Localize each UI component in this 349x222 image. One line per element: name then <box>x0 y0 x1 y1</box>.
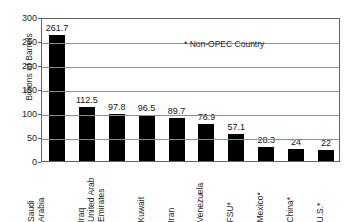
x-label-slot: Venezuela <box>191 163 221 222</box>
x-axis-category-line: Kuwait <box>136 196 146 222</box>
x-label-slot: Kuwait <box>131 163 161 222</box>
y-tick-label: 100 <box>2 110 40 119</box>
bar-value-label: 22 <box>321 139 331 148</box>
y-tick-label: 300 <box>2 14 40 23</box>
bar-chart: Billions of Barrels 300250200150100500 2… <box>0 0 349 222</box>
y-axis-ticks: 300250200150100500 <box>0 0 40 222</box>
y-tick-label: 150 <box>2 86 40 95</box>
bar <box>318 150 334 161</box>
x-axis-category-label: Kuwait <box>136 196 146 222</box>
x-axis-category-line: FSU* <box>226 202 236 222</box>
x-axis-category-line: Emirates <box>97 178 107 222</box>
bar <box>139 115 155 161</box>
x-axis-category-label: United ArabEmirates <box>87 178 106 222</box>
gridline <box>42 115 339 116</box>
bar <box>228 134 244 161</box>
non-opec-annotation: * Non-OPEC Country <box>184 39 264 49</box>
gridline <box>42 139 339 140</box>
gridline <box>42 91 339 92</box>
x-axis-category-line: China* <box>286 196 296 222</box>
bar-value-label: 97.8 <box>108 103 126 112</box>
x-axis-category-label: FSU* <box>226 202 236 222</box>
bar <box>198 124 214 161</box>
gridline <box>42 67 339 68</box>
x-label-slot: China* <box>280 163 310 222</box>
bar <box>288 149 304 161</box>
x-label-slot: Iran <box>161 163 191 222</box>
y-tick-label: 50 <box>2 134 40 143</box>
x-label-slot: United ArabEmirates <box>101 163 131 222</box>
bar-value-label: 96.5 <box>138 104 156 113</box>
bar-value-label: 112.5 <box>76 96 98 105</box>
bar <box>49 35 65 161</box>
bar <box>109 114 125 161</box>
bar <box>258 147 274 161</box>
y-tick-label: 250 <box>2 38 40 47</box>
x-label-slot: SaudiArabia <box>41 163 71 222</box>
x-axis-category-label: U.S.* <box>316 202 326 222</box>
x-label-slot: FSU* <box>220 163 250 222</box>
x-axis-category-line: Arabia <box>37 197 47 222</box>
bar-value-label: 261.7 <box>46 24 69 33</box>
x-axis-category-label: China* <box>286 196 296 222</box>
y-tick-label: 200 <box>2 62 40 71</box>
x-axis-category-label: Venezuela <box>196 182 206 222</box>
x-axis-category-line: U.S.* <box>316 202 326 222</box>
y-tick-label: 0 <box>2 158 40 167</box>
x-axis-category-label: Mexico* <box>256 192 266 222</box>
x-axis-category-line: Iraq <box>76 207 86 222</box>
bar-value-label: 57.1 <box>228 123 246 132</box>
x-axis-category-label: SaudiArabia <box>27 197 46 222</box>
x-axis-labels: SaudiArabiaIraqUnited ArabEmiratesKuwait… <box>41 163 340 222</box>
x-label-slot: Mexico* <box>250 163 280 222</box>
x-axis-category-line: Iran <box>166 207 176 222</box>
x-axis-category-line: Venezuela <box>196 182 206 222</box>
x-axis-category-label: Iran <box>166 207 176 222</box>
bar-value-label: 28.3 <box>257 136 275 145</box>
x-axis-category-label: Iraq <box>76 207 86 222</box>
x-label-slot: U.S.* <box>310 163 340 222</box>
x-axis-category-line: Mexico* <box>256 192 266 222</box>
